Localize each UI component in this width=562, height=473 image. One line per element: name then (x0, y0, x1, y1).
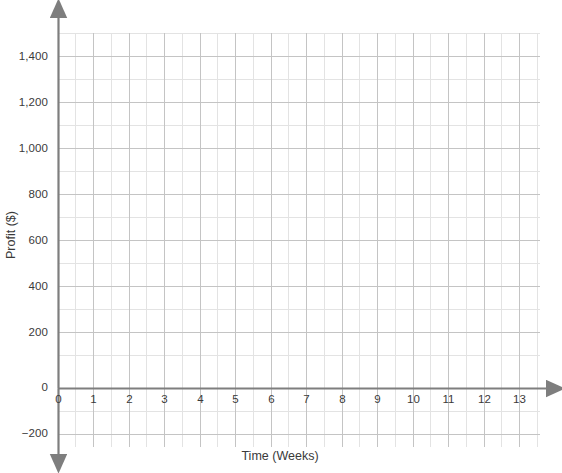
x-tick-label-9: 9 (363, 393, 392, 405)
axis-lines (58, 16, 548, 456)
x-tick-label-0: 0 (44, 393, 73, 405)
x-tick-label-3: 3 (150, 393, 179, 405)
x-tick-label-11: 11 (434, 393, 463, 405)
chart-container: 1,400 1,200 1,000 800 600 400 200 0 −200… (0, 0, 562, 473)
y-tick-label-0: 0 (0, 381, 48, 393)
x-tick-label-4: 4 (186, 393, 215, 405)
y-tick-label-1200: 1,200 (0, 96, 48, 108)
x-tick-label-6: 6 (257, 393, 286, 405)
y-axis-title: Profit ($) (4, 195, 18, 275)
y-tick-label-400: 400 (0, 280, 48, 292)
x-tick-label-8: 8 (328, 393, 357, 405)
x-tick-label-13: 13 (505, 393, 534, 405)
x-tick-label-7: 7 (292, 393, 321, 405)
x-tick-label-1: 1 (79, 393, 108, 405)
major-grid-horizontal (58, 57, 540, 435)
y-tick-label-200: 200 (0, 326, 48, 338)
y-tick-label-1000: 1,000 (0, 142, 48, 154)
x-tick-label-2: 2 (115, 393, 144, 405)
x-tick-label-10: 10 (399, 393, 428, 405)
minor-grid-horizontal (58, 34, 540, 412)
y-tick-label-minus200: −200 (0, 427, 48, 439)
x-axis-title: Time (Weeks) (200, 449, 360, 463)
x-tick-label-5: 5 (221, 393, 250, 405)
y-tick-label-1400: 1,400 (0, 50, 48, 62)
x-tick-label-12: 12 (470, 393, 499, 405)
